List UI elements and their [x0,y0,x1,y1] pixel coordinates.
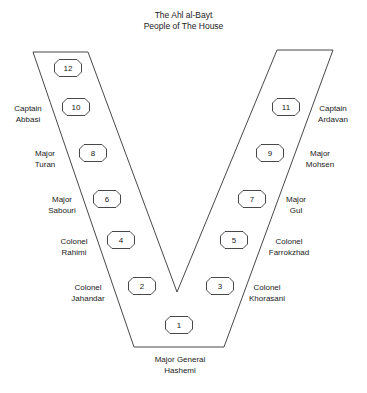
member-label: CaptainAbbasi [14,103,42,125]
member-label: MajorMohsen [306,148,334,170]
rank-number: 7 [250,195,254,204]
member-label: Major GeneralHashemi [155,354,206,376]
rank-node-1: 1 [165,316,193,334]
rank-node-5: 5 [220,231,248,249]
rank-node-4: 4 [107,231,135,249]
member-label: ColonelJahandar [71,282,104,304]
rank-node-6: 6 [93,190,121,208]
rank-node-7: 7 [238,190,266,208]
rank-node-8: 8 [79,144,107,162]
rank-number: 11 [282,103,290,112]
rank-number: 3 [218,282,222,291]
rank-number: 10 [72,103,81,112]
rank-number: 12 [64,64,73,73]
rank-node-12: 12 [54,59,82,77]
rank-number: 1 [177,321,181,330]
member-label: ColonelKhorasani [249,282,285,304]
member-label: MajorTuran [35,148,56,170]
rank-number: 9 [268,149,272,158]
member-label: MajorGul [286,194,306,216]
rank-node-10: 10 [62,98,90,116]
rank-node-3: 3 [206,277,234,295]
rank-number: 8 [91,149,95,158]
rank-number: 4 [119,236,123,245]
rank-node-2: 2 [128,277,156,295]
rank-number: 5 [232,236,236,245]
member-label: ColonelRahimi [60,236,87,258]
member-label: MajorSabouri [48,194,76,216]
member-label: CaptainArdavan [318,103,348,125]
rank-node-9: 9 [256,144,284,162]
member-label: ColonelFarrokzhad [269,236,309,258]
rank-node-11: 11 [272,98,300,116]
rank-number: 2 [140,282,144,291]
rank-number: 6 [105,195,109,204]
